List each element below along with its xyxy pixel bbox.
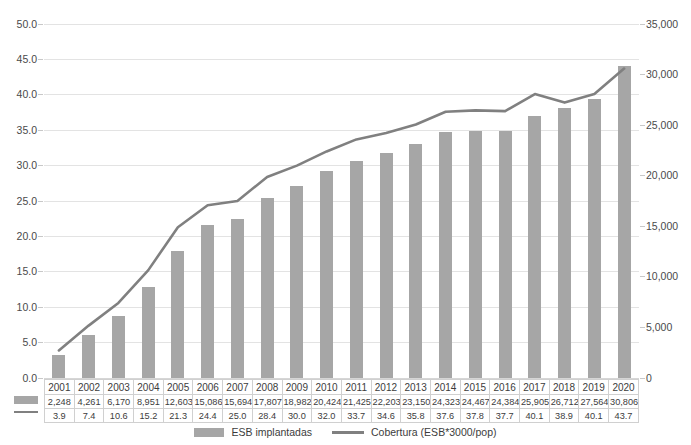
legend-item-esb-implantadas: ESB implantadas [194,426,312,438]
left-axis-tick-label: 25.0 [17,196,37,207]
table-row-esb-implantadas-cell: 21,425 [341,395,371,409]
table-row-esb-implantadas-cell: 6,170 [104,395,134,409]
right-axis-tick-label: 25,000 [646,120,678,131]
left-axis-tick-label: 35.0 [17,125,37,136]
table-row-cobertura-cell: 15.2 [134,409,164,423]
table-row-years-cell: 2020 [609,380,639,395]
left-axis-tick-label: 40.0 [17,89,37,100]
table-row-esb-implantadas: 2,2484,2616,1708,95112,60315,08615,69417… [45,395,639,409]
table-row-esb-implantadas-cell: 2,248 [45,395,75,409]
right-axis-tick-label: 35,000 [646,19,678,30]
chart-container: 0.05.010.015.020.025.030.035.040.045.050… [0,0,691,445]
table-row-esb-implantadas-cell: 18,982 [282,395,312,409]
table-row-cobertura-cell: 24.4 [193,409,223,423]
table-row-esb-implantadas-cell: 23,150 [401,395,431,409]
table-row-years-cell: 2019 [579,380,609,395]
table-row-esb-implantadas-cell: 17,807 [252,395,282,409]
table-row-esb-implantadas-cell: 8,951 [134,395,164,409]
chart-legend: ESB implantadas Cobertura (ESB*3000/pop) [0,426,691,438]
line-swatch-icon [332,431,364,434]
table-row-years-cell: 2010 [312,380,342,395]
right-axis-tick-label: 15,000 [646,221,678,232]
table-row-years-cell: 2014 [430,380,460,395]
left-axis-tick-label: 10.0 [17,302,37,313]
coverage-line-path [59,69,624,351]
left-axis-tick-mark [38,24,43,25]
table-row-years-cell: 2004 [134,380,164,395]
legend-item-cobertura: Cobertura (ESB*3000/pop) [332,426,497,438]
left-axis-tick-mark [38,378,43,379]
left-axis-tick-mark [38,201,43,202]
table-row-years-cell: 2006 [193,380,223,395]
left-axis-tick-label: 50.0 [17,19,37,30]
right-axis-tick-mark [640,74,645,75]
right-axis-tick-label: 20,000 [646,170,678,181]
table-row-cobertura-cell: 32.0 [312,409,342,423]
table-row-years-cell: 2012 [371,380,401,395]
table-row-cobertura-cell: 43.7 [609,409,639,423]
left-axis-tick-mark [38,165,43,166]
plot-area: 0.05.010.015.020.025.030.035.040.045.050… [44,24,639,378]
table-row-esb-implantadas-cell: 26,712 [549,395,579,409]
table-row-cobertura-cell: 21.3 [163,409,193,423]
right-axis-tick-mark [640,327,645,328]
right-axis-tick-mark [640,175,645,176]
table-row-years-cell: 2008 [252,380,282,395]
table-row-cobertura-cell: 3.9 [45,409,75,423]
left-axis-tick-mark [38,342,43,343]
left-axis-tick-label: 0.0 [22,373,37,384]
line-series-layer [44,24,639,378]
table-row-years: 2001200220032004200520062007200820092010… [45,380,639,395]
left-axis-tick-label: 30.0 [17,160,37,171]
table-row-years-cell: 2002 [74,380,104,395]
right-axis-tick-mark [640,125,645,126]
table-row-cobertura-cell: 7.4 [74,409,104,423]
table-row-years-cell: 2001 [45,380,75,395]
right-axis-tick-mark [640,378,645,379]
table-row-esb-implantadas-cell: 15,086 [193,395,223,409]
left-axis-tick-mark [38,307,43,308]
left-axis-tick-label: 5.0 [22,337,37,348]
table-row-esb-implantadas-cell: 30,806 [609,395,639,409]
table-row-years-cell: 2017 [520,380,550,395]
table-row-cobertura-cell: 30.0 [282,409,312,423]
table-row-cobertura-cell: 35.8 [401,409,431,423]
table-row-years-cell: 2007 [223,380,253,395]
table-row-cobertura-cell: 40.1 [579,409,609,423]
table-row-cobertura: 3.97.410.615.221.324.425.028.430.032.033… [45,409,639,423]
table-row-cobertura-cell: 28.4 [252,409,282,423]
left-axis-tick-label: 45.0 [17,54,37,65]
table-row-years-cell: 2013 [401,380,431,395]
legend-label-esb-implantadas: ESB implantadas [231,426,312,438]
right-axis-tick-label: 30,000 [646,69,678,80]
table-row-cobertura-cell: 38.9 [549,409,579,423]
table-row-esb-implantadas-cell: 22,203 [371,395,401,409]
left-axis-tick-mark [38,130,43,131]
right-axis-tick-mark [640,226,645,227]
table-row-cobertura-cell: 37.6 [430,409,460,423]
right-axis-tick-label: 0 [646,373,652,384]
left-axis-tick-label: 20.0 [17,231,37,242]
table-row-cobertura-cell: 10.6 [104,409,134,423]
left-axis-tick-mark [38,236,43,237]
right-axis-tick-label: 10,000 [646,271,678,282]
data-table: 2001200220032004200520062007200820092010… [44,379,639,423]
bar-swatch-icon [194,428,224,437]
table-row-years-cell: 2015 [460,380,490,395]
table-row-esb-implantadas-cell: 24,384 [490,395,520,409]
table-row-years-cell: 2016 [490,380,520,395]
table-row-esb-implantadas-cell: 27,564 [579,395,609,409]
legend-label-cobertura: Cobertura (ESB*3000/pop) [371,426,497,438]
table-row-years-cell: 2011 [341,380,371,395]
table-row-years-cell: 2003 [104,380,134,395]
table-row-cobertura-cell: 40.1 [520,409,550,423]
table-row-esb-implantadas-cell: 25,905 [520,395,550,409]
bar-series-row-marker-icon [14,396,38,404]
right-axis-tick-mark [640,276,645,277]
table-row-esb-implantadas-cell: 20,424 [312,395,342,409]
right-axis-tick-label: 5,000 [646,322,672,333]
left-axis-tick-label: 15.0 [17,266,37,277]
left-axis-tick-mark [38,271,43,272]
table-row-esb-implantadas-cell: 15,694 [223,395,253,409]
left-axis-tick-mark [38,59,43,60]
